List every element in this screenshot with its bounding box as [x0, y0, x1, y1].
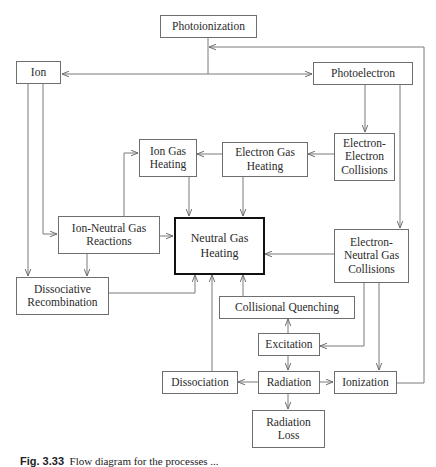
edge-ion-to-ion-neutral-reactions [43, 83, 57, 234]
node-label: Loss [278, 429, 300, 443]
node-label: Collisional Quenching [235, 301, 339, 315]
node-radiation-loss: Radiation Loss [252, 410, 325, 448]
node-collisional-quenching: Collisional Quenching [219, 296, 355, 319]
node-neutral-gas-heating: Neutral Gas Heating [174, 217, 265, 275]
node-label: Ion Gas [150, 145, 186, 159]
node-label: Dissociative [34, 283, 91, 297]
node-label: Ion-Neutral Gas [72, 222, 146, 236]
node-label: Excitation [265, 338, 312, 352]
node-label: Photoelectron [331, 67, 395, 81]
node-photoelectron: Photoelectron [313, 62, 413, 85]
node-label: Electron [345, 150, 384, 164]
node-ionization: Ionization [334, 371, 397, 394]
node-label: Collisions [348, 263, 395, 277]
node-electron-electron-collisions: Electron- Electron Collisions [334, 133, 395, 181]
figure-caption-text: Flow diagram for the processes ... [67, 455, 219, 467]
node-label: Heating [150, 158, 186, 172]
node-label: Recombination [27, 296, 97, 310]
node-label: Ionization [342, 376, 389, 390]
node-ion-gas-heating: Ion Gas Heating [139, 139, 197, 177]
node-dissociative-recombination: Dissociative Recombination [16, 277, 109, 315]
node-label: Electron Gas [235, 146, 295, 160]
node-label: Heating [201, 246, 239, 261]
node-photoionization: Photoionization [160, 15, 257, 38]
node-electron-gas-heating: Electron Gas Heating [222, 142, 308, 177]
node-label: Radiation [266, 416, 311, 430]
node-ion: Ion [16, 61, 61, 84]
edge-ion-neutral-to-ion-gas-heating [124, 153, 138, 216]
node-radiation: Radiation [258, 371, 320, 394]
figure-label: Fig. 3.33 [20, 455, 64, 467]
node-electron-neutral-gas-collisions: Electron- Neutral Gas Collisions [334, 229, 409, 283]
node-label: Neutral Gas [344, 249, 399, 263]
node-label: Ion [31, 66, 46, 80]
node-excitation: Excitation [258, 333, 320, 356]
node-label: Heating [247, 160, 283, 174]
node-label: Collisions [341, 164, 388, 178]
node-ion-neutral-gas-reactions: Ion-Neutral Gas Reactions [58, 216, 160, 254]
node-label: Electron- [343, 137, 386, 151]
figure-caption: Fig. 3.33 Flow diagram for the processes… [20, 455, 219, 467]
node-label: Photoionization [172, 20, 245, 34]
node-dissociation: Dissociation [162, 371, 238, 394]
node-label: Neutral Gas [191, 231, 249, 246]
node-label: Radiation [267, 376, 312, 390]
node-label: Reactions [86, 235, 131, 249]
node-label: Electron- [350, 236, 393, 250]
node-label: Dissociation [171, 376, 229, 390]
edge-dissociative-to-neutral [108, 275, 195, 293]
